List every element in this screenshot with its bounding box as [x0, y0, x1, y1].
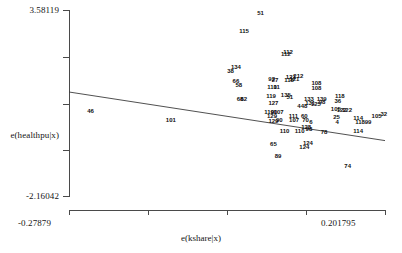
y-axis-tick: [63, 10, 69, 11]
data-point-label: 11: [273, 84, 279, 90]
x-axis-tick: [69, 210, 70, 215]
data-point-label: 448: [297, 103, 307, 109]
y-axis-tick: [63, 57, 69, 58]
data-point-label: 65: [270, 141, 277, 147]
data-point-label: 27: [272, 77, 279, 83]
data-point-label: 78: [321, 129, 328, 135]
scatter-plot: 3.58119 e(healthpu|x) -2.16042 -0.27879 …: [0, 0, 402, 253]
x-axis-title: e(kshare|x): [0, 234, 402, 243]
y-axis-tick: [63, 196, 69, 197]
data-point-label: 122: [342, 107, 352, 113]
data-point-label: 107: [289, 117, 299, 123]
data-point-label: 89: [275, 153, 282, 159]
data-point-label: 112: [281, 51, 291, 57]
data-point-label: 108: [311, 85, 321, 91]
data-point-label: 98: [319, 99, 326, 105]
data-point-label: 115: [239, 28, 249, 34]
data-point-label: 121: [289, 76, 299, 82]
data-point-label: 110: [280, 128, 290, 134]
data-point-label: 70: [302, 117, 309, 123]
data-point-label: 127: [268, 100, 278, 106]
x-axis-tick: [227, 210, 228, 215]
data-point-label: 51: [286, 94, 293, 100]
regression-fit-line: [0, 0, 402, 253]
y-axis-tick: [63, 150, 69, 151]
data-point-label: 74: [344, 163, 351, 169]
y-axis-title: e(healthpu|x): [10, 131, 59, 140]
data-point-label: 90: [276, 117, 283, 123]
y-axis-line: [69, 10, 70, 197]
data-point-label: 58: [235, 82, 242, 88]
x-axis-tick: [385, 210, 386, 215]
y-axis-min-label: -2.16042: [26, 192, 59, 201]
x-axis-min-label: -0.27879: [18, 219, 51, 228]
data-point-label: 62: [240, 96, 247, 102]
data-point-label: 38: [227, 68, 234, 74]
x-axis-tick: [148, 210, 149, 215]
data-point-label: 124: [299, 144, 309, 150]
data-point-label: 99: [365, 119, 372, 125]
data-point-label: 119: [266, 93, 276, 99]
data-point-label: 98: [306, 126, 313, 132]
data-point-label: 46: [87, 108, 94, 114]
data-point-label: 32: [380, 111, 387, 117]
y-axis-max-label: 3.58119: [29, 6, 59, 15]
data-point-label: 36: [334, 98, 341, 104]
data-point-label: 51: [257, 10, 264, 16]
x-axis-tick: [306, 210, 307, 215]
data-point-label: 4: [335, 119, 338, 125]
data-point-label: 118: [355, 119, 365, 125]
data-point-label: 114: [353, 128, 363, 134]
x-axis-max-label: 0.201795: [321, 219, 356, 228]
y-axis-tick: [63, 104, 69, 105]
data-point-label: 110: [295, 128, 305, 134]
data-point-label: 101: [166, 117, 176, 123]
